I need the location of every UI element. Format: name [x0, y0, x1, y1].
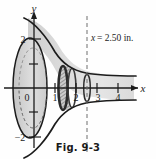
figure-caption-wrapper: Fig. 9-3	[0, 137, 156, 155]
x-tick-label-2: 2	[74, 92, 79, 103]
x-axis-label: x	[140, 82, 146, 94]
annotation-x-equals-2point5: x = 2.50 in.	[90, 33, 134, 43]
x-tick-label-1: 1	[53, 92, 58, 103]
y-tick-label-positive-2: 2	[21, 34, 26, 45]
x-tick-label-3: 3	[96, 92, 101, 103]
x-tick-label-0: 0	[25, 92, 30, 103]
y-axis-label: y	[31, 2, 37, 14]
solid-of-revolution-diagram: x y 0 1 2 3 4 2 −2 x = 2.50 in.	[0, 0, 156, 159]
figure-container: x y 0 1 2 3 4 2 −2 x = 2.50 in. Fig. 9-3	[0, 0, 156, 159]
annotation-variable: x	[90, 33, 96, 43]
figure-caption: Fig. 9-3	[56, 142, 100, 153]
x-axis-arrowhead	[131, 85, 138, 91]
annotation-value: = 2.50 in.	[97, 33, 134, 43]
x-tick-label-4: 4	[116, 92, 121, 103]
